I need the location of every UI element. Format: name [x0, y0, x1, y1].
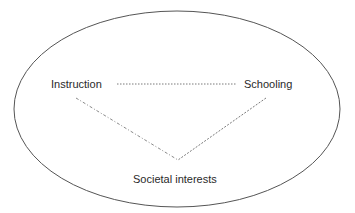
- edge-instruction-societal-interests: [76, 98, 178, 160]
- edge-schooling-societal-interests: [178, 98, 266, 160]
- node-label-schooling: Schooling: [244, 78, 292, 90]
- diagram-canvas: Instruction Schooling Societal interests: [0, 0, 355, 213]
- node-label-instruction: Instruction: [51, 78, 102, 90]
- node-label-societal-interests: Societal interests: [133, 173, 217, 185]
